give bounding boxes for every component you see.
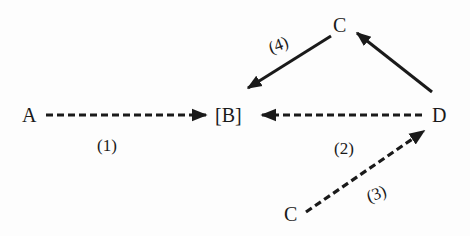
edge-label-3: (3) — [364, 182, 389, 207]
edge-d-to-c-solid-arrow — [357, 33, 432, 92]
node-c-bottom: C — [284, 203, 297, 225]
edge-c-to-d-dashed-arrow — [306, 131, 424, 212]
node-c-top: C — [333, 14, 346, 36]
node-a: A — [22, 104, 37, 126]
edge-label-2: (2) — [334, 139, 354, 158]
node-b: [B] — [215, 104, 242, 126]
reaction-diagram: A [B] C D C (1) (2) (3) (4) — [0, 0, 470, 236]
edge-label-1: (1) — [97, 136, 117, 155]
node-d: D — [432, 104, 446, 126]
edge-label-4: (4) — [266, 33, 291, 58]
edge-c-to-b-solid-arrow — [248, 36, 331, 88]
